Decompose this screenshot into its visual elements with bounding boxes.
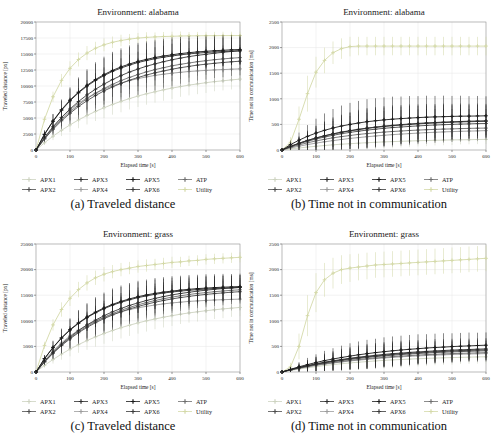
- legend-label: ATP: [442, 398, 453, 405]
- legend-marker-icon: [177, 407, 193, 416]
- legend-item-atp: ATP: [177, 175, 225, 184]
- chart-c-canvas: 0100200300400500600050001000015000200002…: [0, 226, 246, 396]
- legend-item-apx3: APX3: [319, 397, 367, 406]
- legend-item-apx4: APX4: [73, 185, 121, 194]
- figure-a: 0100200300400500600025005000750010000125…: [0, 0, 246, 222]
- legend-item-apx1: APX1: [267, 397, 315, 406]
- x-tick-label: 500: [448, 376, 456, 381]
- y-tick-label: 2500: [23, 132, 34, 137]
- chart-d-canvas: 010020030040050060005001000150020002500 …: [246, 226, 492, 396]
- x-tick-label: 400: [414, 376, 422, 381]
- legend-label: ATP: [442, 176, 453, 183]
- legend-item-apx1: APX1: [267, 175, 315, 184]
- legend-marker-icon: [21, 185, 37, 194]
- x-tick-label: 200: [100, 154, 108, 159]
- legend-label: APX4: [338, 408, 353, 415]
- legend-label: APX3: [338, 176, 353, 183]
- legend-label: ATP: [196, 398, 207, 405]
- legend-marker-icon: [267, 407, 283, 416]
- errorbars-apx4: [45, 57, 241, 141]
- legend-marker-icon: [21, 397, 37, 406]
- x-tick-label: 100: [66, 376, 74, 381]
- legend-item-atp: ATP: [423, 175, 471, 184]
- y-tick-label: 15000: [21, 52, 34, 57]
- legend-label: APX5: [144, 176, 159, 183]
- figure-d-caption: (d) Time not in communication: [291, 419, 447, 434]
- legend-row: APX2APX4APX6Utility: [21, 185, 225, 194]
- chart-c-xlabel: Elapsed time [s]: [120, 384, 155, 390]
- legend-marker-icon: [177, 175, 193, 184]
- legend-label: APX6: [390, 408, 405, 415]
- legend-marker-icon: [319, 175, 335, 184]
- x-tick-label: 100: [312, 154, 320, 159]
- y-tick-label: 1500: [269, 71, 280, 76]
- chart-b-title: Environment: alabama: [343, 7, 425, 17]
- errorbars-apx3: [45, 275, 241, 362]
- legend-item-apx6: APX6: [371, 407, 419, 416]
- x-tick-label: 100: [66, 154, 74, 159]
- legend-label: APX3: [92, 176, 107, 183]
- legend-item-apx4: APX4: [319, 407, 367, 416]
- y-tick-label: 1500: [269, 293, 280, 298]
- legend-label: APX3: [92, 398, 107, 405]
- x-tick-label: 100: [312, 376, 320, 381]
- legend-item-atp: ATP: [177, 397, 225, 406]
- x-tick-label: 0: [35, 376, 38, 381]
- y-tick-label: 5000: [23, 116, 34, 121]
- y-tick-label: 7500: [23, 100, 34, 105]
- legend-row: APX2APX4APX6Utility: [267, 407, 471, 416]
- legend-label: APX5: [144, 398, 159, 405]
- legend-label: APX5: [390, 398, 405, 405]
- errorbars-atp: [291, 116, 487, 150]
- errorbars-apx2: [291, 341, 487, 372]
- plot-area: 010020030040050060005001000150020002500: [269, 242, 490, 381]
- legend-item-atp: ATP: [423, 397, 471, 406]
- legend-row: APX1APX3APX5ATP: [267, 175, 471, 184]
- chart-b-ylabel: Time not in communication [ms]: [248, 50, 254, 121]
- errorbars-apx2: [45, 280, 241, 365]
- x-tick-label: 400: [414, 154, 422, 159]
- legend-label: APX1: [40, 176, 55, 183]
- x-tick-label: 200: [346, 154, 354, 159]
- legend-label: APX2: [40, 408, 55, 415]
- legend-marker-icon: [423, 175, 439, 184]
- chart-b-xlabel: Elapsed time [s]: [366, 162, 401, 168]
- x-tick-label: 200: [100, 376, 108, 381]
- legend-marker-icon: [177, 397, 193, 406]
- legend-item-apx6: APX6: [125, 185, 173, 194]
- legend-item-apx2: APX2: [21, 185, 69, 194]
- y-tick-label: 12500: [21, 68, 34, 73]
- y-tick-label: 0: [31, 370, 34, 375]
- y-tick-label: 2000: [269, 45, 280, 50]
- figure-c: 0100200300400500600050001000015000200002…: [0, 222, 246, 444]
- y-tick-label: 5000: [23, 344, 34, 349]
- x-tick-label: 500: [202, 376, 210, 381]
- legend-label: Utility: [196, 408, 212, 415]
- chart-b-legend: APX1APX3APX5ATPAPX2APX4APX6Utility: [267, 175, 471, 194]
- figure-b: 010020030040050060005001000150020002500 …: [246, 0, 492, 222]
- legend-label: APX3: [338, 398, 353, 405]
- legend-marker-icon: [73, 397, 89, 406]
- chart-b-canvas: 010020030040050060005001000150020002500 …: [246, 4, 492, 174]
- legend-item-apx2: APX2: [267, 407, 315, 416]
- errorbars-apx4: [291, 345, 487, 371]
- chart-a-title: Environment: alabama: [97, 7, 179, 17]
- figure-grid: 0100200300400500600025005000750010000125…: [0, 0, 492, 444]
- x-tick-label: 600: [236, 154, 244, 159]
- figure-b-caption: (b) Time not in communication: [291, 197, 447, 212]
- legend-marker-icon: [423, 185, 439, 194]
- y-tick-label: 20000: [21, 267, 34, 272]
- x-tick-label: 400: [168, 376, 176, 381]
- y-tick-label: 0: [31, 148, 34, 153]
- chart-c-legend: APX1APX3APX5ATPAPX2APX4APX6Utility: [21, 397, 225, 416]
- x-tick-label: 300: [380, 376, 388, 381]
- plot-area: 010020030040050060005001000150020002500: [269, 20, 490, 159]
- plot-area: 0100200300400500600050001000015000200002…: [21, 242, 245, 381]
- legend-item-apx3: APX3: [319, 175, 367, 184]
- legend-item-apx1: APX1: [21, 397, 69, 406]
- y-tick-label: 500: [272, 344, 280, 349]
- y-tick-label: 500: [272, 122, 280, 127]
- x-tick-label: 0: [281, 376, 284, 381]
- x-tick-label: 0: [35, 154, 38, 159]
- figure-a-caption: (a) Traveled distance: [71, 197, 176, 212]
